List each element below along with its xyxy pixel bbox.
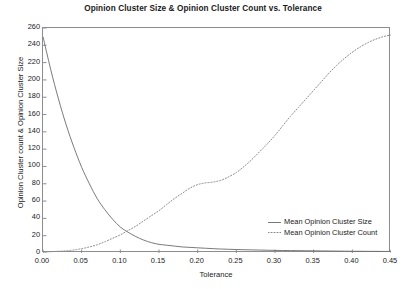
chart-figure: Opinion Cluster Size & Opinion Cluster C… <box>0 0 406 289</box>
x-axis-tick-label: 0.05 <box>61 256 101 265</box>
x-axis-label: Tolerance <box>42 270 390 279</box>
x-axis-tick-label: 0.35 <box>293 256 333 265</box>
legend-label: Mean Opinion Cluster Count <box>284 228 377 239</box>
legend-item-mean-opinion-cluster-count: Mean Opinion Cluster Count <box>268 228 377 239</box>
legend-item-mean-opinion-cluster-size: Mean Opinion Cluster Size <box>268 217 377 228</box>
chart-legend: Mean Opinion Cluster Size Mean Opinion C… <box>268 217 377 238</box>
x-axis-tick-label: 0.30 <box>254 256 294 265</box>
legend-dotted-line-icon <box>268 228 281 237</box>
legend-label: Mean Opinion Cluster Size <box>284 217 372 228</box>
x-axis-tick-label: 0.20 <box>177 256 217 265</box>
x-axis-tick-label: 0.45 <box>370 256 406 265</box>
legend-solid-line-icon <box>268 218 281 227</box>
x-axis-tick-label: 0.00 <box>22 256 62 265</box>
x-axis-tick-label: 0.25 <box>215 256 255 265</box>
x-axis-tick-label: 0.10 <box>99 256 139 265</box>
x-axis-tick-label: 0.15 <box>138 256 178 265</box>
x-axis-tick-label: 0.40 <box>331 256 371 265</box>
